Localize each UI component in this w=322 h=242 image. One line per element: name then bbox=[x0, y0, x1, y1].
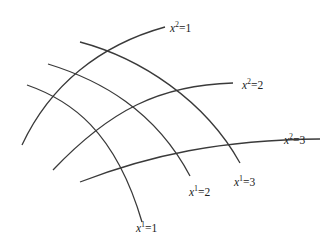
curve-x1-1 bbox=[27, 85, 142, 222]
curve-x1-2 bbox=[48, 64, 190, 176]
label-x2-1: x2=1 bbox=[169, 20, 192, 34]
label-x1-3: x1=3 bbox=[233, 174, 256, 188]
coordinate-grid-diagram: x2=1 x2=2 x2=3 x1=3 x1=2 x1=1 bbox=[0, 0, 322, 242]
curve-x1-3 bbox=[80, 42, 240, 163]
label-x1-1: x1=1 bbox=[135, 220, 158, 234]
label-x1-2: x1=2 bbox=[188, 184, 211, 198]
label-x2-3: x2=3 bbox=[283, 132, 306, 146]
label-x2-2: x2=2 bbox=[241, 77, 264, 91]
curve-x2-2 bbox=[53, 83, 233, 170]
